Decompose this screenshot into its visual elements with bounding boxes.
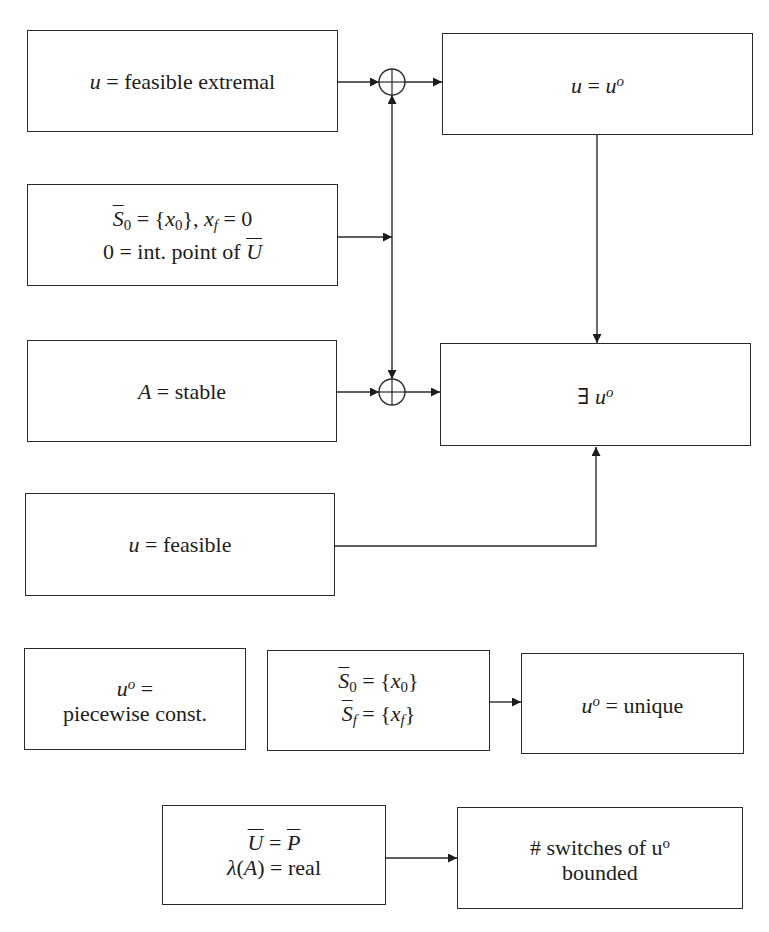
math-var-u: u <box>605 74 616 99</box>
text: # switches of u <box>530 835 663 860</box>
box-singleton-sets: S0 = {x0} Sf = {xf} <box>267 650 490 751</box>
circled-plus-icon <box>379 379 405 405</box>
text: = unique <box>600 693 683 718</box>
math-var-x: x <box>391 701 401 726</box>
text: = feasible <box>140 532 232 557</box>
box-a-stable: A = stable <box>27 340 337 442</box>
box-u-equals-uo: u = uo <box>442 33 753 135</box>
math-var-u: u <box>582 693 593 718</box>
math-var-u: u <box>595 384 606 409</box>
box-u-feasible-extremal: u = feasible extremal <box>27 30 338 132</box>
box-text-line: A = stable <box>138 379 226 404</box>
box-text-line: piecewise const. <box>63 701 207 726</box>
text: = <box>135 676 153 701</box>
text: = { <box>131 206 165 231</box>
exists-symbol: ∃ <box>578 384 595 409</box>
circled-plus-icon <box>379 69 405 95</box>
text: 0 = int. point of <box>103 239 246 264</box>
text: bounded <box>562 860 638 885</box>
math-var-p-bar: P <box>287 830 300 855</box>
box-text-line: # switches of uo <box>530 831 670 860</box>
box-u-equals-p-real-eigenvalues: U = P λ(A) = real <box>162 805 386 905</box>
box-text-line: uo = unique <box>582 689 684 718</box>
subscript: 0 <box>349 680 356 696</box>
box-initial-set-condition: S0 = {x0}, xf = 0 0 = int. point of U <box>27 184 338 286</box>
box-text-line: Sf = {xf} <box>342 701 416 733</box>
text: = <box>264 830 287 855</box>
box-switches-bounded: # switches of uo bounded <box>457 807 743 909</box>
text: piecewise const. <box>63 701 207 726</box>
text: = 0 <box>218 206 252 231</box>
superscript-o: o <box>616 73 623 89</box>
math-var-a: A <box>138 379 151 404</box>
box-text-line: bounded <box>562 860 638 885</box>
math-var-x: x <box>391 668 401 693</box>
box-text-line: S0 = {x0} <box>338 668 418 700</box>
block-diagram: u = feasible extremal u = uo S0 = {x0}, … <box>0 0 769 932</box>
box-exists-uo: ∃ uo <box>440 343 751 446</box>
box-uo-unique: uo = unique <box>521 653 744 754</box>
box-text-line: u = uo <box>571 69 624 98</box>
math-var-s-bar: S <box>342 701 353 726</box>
math-var-x: x <box>165 206 175 231</box>
text: ) = real <box>257 855 321 880</box>
text: }, <box>182 206 204 231</box>
box-text-line: u = feasible <box>129 532 232 557</box>
superscript-o: o <box>593 693 600 709</box>
math-var-u: u <box>571 74 582 99</box>
superscript-o: o <box>606 384 613 400</box>
math-var-u: u <box>90 69 101 94</box>
math-var-s-bar: S <box>113 206 124 231</box>
math-var-a: A <box>244 855 257 880</box>
math-var-u-bar: U <box>248 830 264 855</box>
text: = { <box>357 668 391 693</box>
superscript-o: o <box>663 835 670 851</box>
box-text-line: 0 = int. point of U <box>103 239 262 264</box>
box-text-line: λ(A) = real <box>227 855 321 880</box>
text: = { <box>357 701 391 726</box>
box-text-line: S0 = {x0}, xf = 0 <box>113 206 253 238</box>
box-text-line: uo = <box>117 672 153 701</box>
text: = stable <box>151 379 226 404</box>
box-text-line: ∃ uo <box>578 380 614 409</box>
box-text-line: u = feasible extremal <box>90 69 275 94</box>
text: = feasible extremal <box>101 69 275 94</box>
math-var-x: x <box>204 206 214 231</box>
text: } <box>405 701 416 726</box>
arrow-u-feasible-to-exists-uo <box>335 447 596 546</box>
math-var-u: u <box>117 676 128 701</box>
math-var-lambda: λ <box>227 855 237 880</box>
math-var-u: u <box>129 532 140 557</box>
subscript: 0 <box>401 680 408 696</box>
text: = <box>582 74 605 99</box>
connector-layer <box>0 0 769 932</box>
box-uo-piecewise-const: uo = piecewise const. <box>24 648 246 750</box>
text: ( <box>237 855 244 880</box>
math-var-s-bar: S <box>338 668 349 693</box>
math-var-u-bar: U <box>246 239 262 264</box>
box-u-feasible: u = feasible <box>25 493 335 596</box>
box-text-line: U = P <box>248 830 301 855</box>
text: } <box>408 668 419 693</box>
